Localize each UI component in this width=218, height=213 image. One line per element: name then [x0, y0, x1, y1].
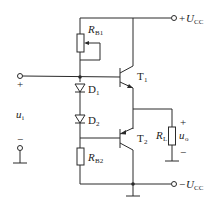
- negative-supply-terminal: [172, 182, 177, 187]
- t1-label: T 1: [137, 70, 148, 84]
- svg-text:D: D: [88, 114, 96, 126]
- wiper-arrow-icon: [84, 41, 89, 45]
- d1-label: D 1: [88, 83, 100, 97]
- svg-text:R: R: [155, 129, 163, 141]
- svg-text:1: 1: [96, 89, 100, 97]
- svg-text:L: L: [163, 135, 167, 143]
- rb1-label: R B1: [87, 23, 104, 37]
- positive-supply-label: + U CC: [179, 12, 204, 26]
- svg-text:+: +: [179, 12, 185, 24]
- negative-supply-label: − U CC: [179, 178, 204, 192]
- svg-text:B2: B2: [95, 157, 104, 165]
- svg-text:D: D: [88, 83, 96, 95]
- positive-supply-terminal: [172, 16, 177, 21]
- rb2-label: R B2: [87, 151, 104, 165]
- svg-text:o: o: [185, 135, 189, 143]
- input-minus-terminal: [18, 146, 23, 151]
- svg-text:−: −: [179, 178, 185, 190]
- svg-text:CC: CC: [194, 184, 204, 192]
- svg-text:2: 2: [96, 120, 100, 128]
- d2-label: D 2: [88, 114, 100, 128]
- output-voltage-label: + u o −: [179, 116, 189, 158]
- rb1-resistor: [77, 34, 84, 52]
- svg-text:B1: B1: [95, 29, 104, 37]
- svg-text:+: +: [180, 116, 186, 128]
- input-plus-sign: +: [17, 78, 23, 90]
- svg-text:2: 2: [144, 138, 148, 146]
- svg-text:i: i: [22, 114, 24, 122]
- svg-text:CC: CC: [194, 18, 204, 26]
- svg-text:−: −: [180, 146, 186, 158]
- svg-text:R: R: [87, 151, 95, 163]
- circuit-diagram: + U CC R B1 + D 1 D 2 R B2 − U: [0, 0, 218, 213]
- rl-label: R L: [155, 129, 167, 143]
- svg-text:R: R: [87, 23, 95, 35]
- rl-resistor: [169, 127, 176, 145]
- svg-text:T: T: [137, 70, 144, 82]
- t1-transistor: [120, 66, 133, 88]
- input-voltage-label: u i: [16, 108, 24, 122]
- input-wire: [23, 76, 121, 77]
- input-minus-sign: −: [17, 133, 23, 145]
- d2-diode: [75, 115, 85, 123]
- svg-text:T: T: [137, 132, 144, 144]
- d1-diode: [75, 84, 85, 92]
- t2-label: T 2: [137, 132, 148, 146]
- rb2-resistor: [77, 148, 84, 165]
- t2-transistor: [120, 128, 133, 150]
- svg-text:1: 1: [144, 76, 148, 84]
